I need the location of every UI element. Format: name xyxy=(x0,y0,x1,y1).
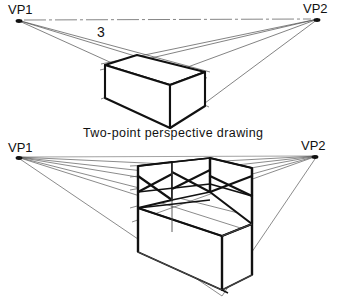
vp1-point-top xyxy=(16,19,23,23)
top-drawing-group: VP1 VP2 3 xyxy=(8,1,328,129)
vp2-point-top xyxy=(314,18,321,22)
vp2-label-top: VP2 xyxy=(303,1,328,16)
vp1-point-bottom xyxy=(16,156,23,160)
structure-apex-lines xyxy=(222,290,228,293)
vp2-point-bottom xyxy=(312,155,319,159)
bottom-drawing-group: VP1 VP2 xyxy=(8,138,326,296)
figure-caption: Two-point perspective drawing xyxy=(83,126,263,140)
structure-left-bay xyxy=(138,162,172,208)
figure-number: 3 xyxy=(97,24,105,40)
vp1-label-top: VP1 xyxy=(8,2,33,17)
horizon-line-bottom xyxy=(22,156,312,157)
vp2-label-bottom: VP2 xyxy=(301,138,326,153)
figure-canvas: VP1 VP2 3 Two-point perspective drawing xyxy=(0,0,340,297)
vp1-label-bottom: VP1 xyxy=(8,140,33,155)
horizon-line-top xyxy=(24,19,311,20)
structure-right-bay xyxy=(210,158,252,224)
perspective-figure: VP1 VP2 3 Two-point perspective drawing xyxy=(0,0,340,297)
